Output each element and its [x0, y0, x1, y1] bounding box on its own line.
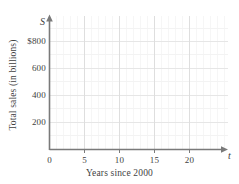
minor-vertical-gridlines: [56, 16, 224, 150]
x-tick-label-20: 20: [178, 155, 201, 165]
y-axis-title: Total sales (in billions): [8, 20, 18, 150]
x-axis-symbol: t: [228, 150, 231, 161]
y-tick-label-600: 600: [0, 63, 46, 73]
y-tick-label-200: 200: [0, 117, 46, 127]
y-axis-symbol: S: [40, 16, 45, 27]
coordinate-grid-figure: S t $800 600 400 200 0 5 10 15 20 Years …: [0, 0, 239, 184]
x-tick-label-15: 15: [143, 155, 166, 165]
major-vertical-gridlines: [85, 16, 190, 150]
x-tick-label-5: 5: [73, 155, 96, 165]
x-axis-title: Years since 2000: [0, 168, 239, 178]
x-tick-label-0: 0: [38, 155, 61, 165]
y-tick-label-800: $800: [0, 36, 46, 46]
minor-horizontal-gridlines: [49, 29, 228, 136]
y-tick-label-400: 400: [0, 90, 46, 100]
x-axis: [50, 146, 229, 153]
y-axis: [46, 15, 53, 151]
x-tick-label-10: 10: [108, 155, 131, 165]
